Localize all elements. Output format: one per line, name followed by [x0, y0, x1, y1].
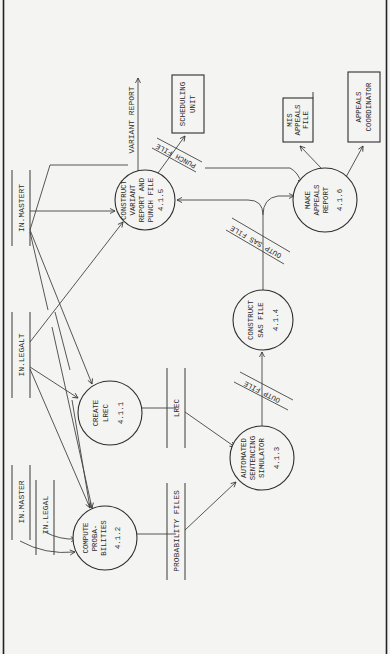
label-in-mastert: IN.MASTERT: [17, 184, 26, 232]
process-4-1-6: MAKE APPEALS REPORT 4.1.6: [293, 168, 357, 232]
svg-text:OUTP SAS FILE: OUTP SAS FILE: [229, 224, 283, 260]
svg-text:UNIT: UNIT: [189, 95, 197, 113]
svg-text:CONSTRUCT: CONSTRUCT: [120, 179, 128, 219]
process-4-1-4: CONSTRUCT SAS FILE 4.1.4: [233, 290, 293, 350]
label-variant-report: VARIANT REPORT: [127, 86, 136, 153]
svg-text:4.1.6: 4.1.6: [336, 189, 344, 211]
flow-label-punch-file: PUNCH FILE: [152, 138, 202, 172]
entity-mis-appeals-file: MIS APPEALS FILE: [283, 92, 313, 142]
flow-master-compute: [20, 541, 75, 553]
svg-text:SENTENCING: SENTENCING: [249, 436, 257, 480]
svg-text:LREC: LREC: [102, 404, 110, 422]
flow-punch-appeals: [205, 168, 302, 184]
svg-text:4.1.5: 4.1.5: [157, 189, 165, 211]
flow-appeals-coordinator: [346, 146, 363, 177]
store-in-legal: IN.LEGAL: [36, 480, 54, 555]
svg-text:VARIANT: VARIANT: [129, 184, 137, 216]
label-probability-files: PROBABILITY FILES: [172, 490, 181, 572]
flow-mastert-compute-a: [30, 232, 48, 310]
svg-text:CREATE: CREATE: [92, 399, 100, 426]
svg-text:4.1.4: 4.1.4: [272, 308, 280, 331]
svg-text:APPEALS: APPEALS: [294, 104, 302, 136]
svg-text:SAS FILE: SAS FILE: [257, 302, 265, 338]
flow-prob-automated: [185, 482, 236, 530]
flow-sas-appeals: [263, 196, 294, 215]
flow-mastert-create: [30, 230, 92, 384]
svg-text:4.1.2: 4.1.2: [114, 527, 122, 549]
svg-text:FILE: FILE: [302, 111, 310, 129]
flow-legalt-create: [30, 367, 78, 398]
entity-scheduling-unit: SCHEDULING UNIT: [172, 75, 204, 133]
flow-lrec-automated: [185, 412, 235, 447]
svg-text:MAKE: MAKE: [304, 191, 312, 209]
entity-appeals-coordinator: APPEALS COORDINATOR: [348, 72, 380, 142]
data-flow-diagram: IN.MASTERT IN.LEGALT IN.MASTER IN.LEGAL …: [0, 0, 390, 654]
process-4-1-1: CREATE LREC 4.1.1: [78, 381, 142, 445]
svg-text:4.1.1: 4.1.1: [117, 401, 125, 424]
flow-legalt-compute: [30, 369, 90, 508]
svg-text:APPEALS: APPEALS: [355, 91, 363, 123]
svg-text:SIMULATOR: SIMULATOR: [258, 437, 266, 477]
store-in-legalt: IN.LEGALT: [12, 312, 30, 398]
store-probability-files: PROBABILITY FILES: [167, 483, 185, 580]
process-4-1-5: CONSTRUCT VARIANT REPORT AND PUNCH FILE …: [115, 170, 175, 230]
svg-text:CONSTRUCT: CONSTRUCT: [247, 299, 255, 339]
svg-text:SCHEDULING: SCHEDULING: [179, 82, 187, 126]
flow-appeals-mis: [300, 146, 322, 169]
svg-text:4.1.3: 4.1.3: [273, 447, 281, 469]
flow-legalt-construct: [30, 222, 123, 342]
label-in-master: IN.MASTER: [17, 480, 26, 523]
svg-text:BILITIES: BILITIES: [100, 520, 108, 556]
svg-text:REPORT: REPORT: [322, 186, 330, 213]
label-in-legalt: IN.LEGALT: [17, 333, 26, 376]
svg-text:PUNCH FILE: PUNCH FILE: [147, 177, 155, 222]
store-in-mastert: IN.MASTERT: [12, 170, 30, 246]
process-4-1-3: AUTOMATED SENTENCING SIMULATOR 4.1.3: [230, 426, 294, 490]
store-in-master: IN.MASTER: [12, 465, 30, 540]
svg-text:COORDINATOR: COORDINATOR: [365, 82, 373, 131]
flow-label-outp-sas-file: OUTP SAS FILE: [226, 218, 290, 264]
flow-label-outp-file: OUTP FILE: [234, 372, 293, 410]
label-in-legal: IN.LEGAL: [41, 496, 50, 535]
flow-mastert-compute-c: [55, 312, 70, 370]
svg-text:REPORT AND: REPORT AND: [138, 177, 146, 222]
svg-text:MIS: MIS: [286, 113, 294, 127]
flow-mastert-top: [30, 165, 128, 230]
svg-text:APPEALS: APPEALS: [313, 184, 321, 216]
svg-text:COMPUTE: COMPUTE: [82, 522, 90, 554]
svg-text:AUTOMATED: AUTOMATED: [240, 437, 248, 477]
flow-sas-construct: [177, 200, 263, 215]
process-4-1-2: COMPUTE PROBA- BILITIES 4.1.2: [73, 506, 137, 570]
svg-text:PROBA-: PROBA-: [91, 525, 99, 552]
